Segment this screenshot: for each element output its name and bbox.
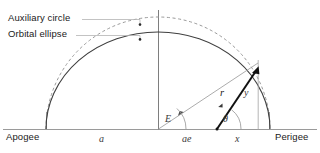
orbital-ellipse-label: Orbital ellipse bbox=[8, 28, 67, 39]
orbital-ellipse-marker bbox=[139, 38, 142, 41]
perigee-label: Perigee bbox=[275, 131, 308, 142]
radius-direction-marker bbox=[218, 104, 222, 108]
orbital-ellipse-diagram: Auxiliary circle Orbital ellipse Apogee … bbox=[0, 0, 320, 153]
focal-distance-label: ae bbox=[182, 133, 191, 144]
true-anomaly-label: θ bbox=[223, 113, 228, 124]
true-anomaly-arc bbox=[232, 110, 242, 129]
auxiliary-circle-curve bbox=[46, 17, 270, 129]
focus-point bbox=[216, 128, 219, 131]
auxiliary-circle-label: Auxiliary circle bbox=[8, 12, 70, 23]
eccentric-anomaly-label: E bbox=[165, 113, 171, 124]
apogee-label: Apogee bbox=[6, 131, 39, 142]
auxiliary-circle-marker bbox=[139, 23, 142, 26]
radius-label: r bbox=[220, 87, 224, 98]
semi-major-axis-label: a bbox=[99, 133, 104, 144]
abscissa-label: x bbox=[235, 133, 239, 144]
radius-vector-arrowhead bbox=[252, 66, 259, 74]
ordinate-label: y bbox=[244, 87, 248, 98]
